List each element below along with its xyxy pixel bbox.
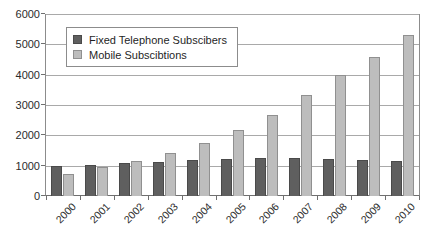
- bar-mobile-subscriptions: [97, 167, 108, 196]
- x-axis-tick-mark: [182, 196, 183, 200]
- x-axis-tick-mark: [114, 196, 115, 200]
- y-axis-tick-label: 2000: [0, 130, 40, 141]
- bar-fixed-telephone: [357, 160, 368, 196]
- y-axis-tick-label: 1000: [0, 161, 40, 172]
- x-axis-tick-mark: [283, 196, 284, 200]
- bar-fixed-telephone: [391, 161, 402, 196]
- x-axis-tick-label: 2007: [291, 201, 315, 225]
- bar-mobile-subscriptions: [131, 161, 142, 196]
- bar-group: [317, 15, 351, 196]
- y-axis-tick-label: 0: [0, 191, 40, 202]
- bar-mobile-subscriptions: [267, 115, 278, 196]
- x-axis-tick-label: 2000: [54, 201, 78, 225]
- bar-mobile-subscriptions: [369, 57, 380, 196]
- x-axis-tick-mark: [317, 196, 318, 200]
- bar-fixed-telephone: [119, 163, 130, 196]
- bar-fixed-telephone: [323, 159, 334, 196]
- bar-group: [283, 15, 317, 196]
- bar-group: [385, 15, 419, 196]
- bar-mobile-subscriptions: [165, 153, 176, 196]
- x-axis-tick-label: 2005: [223, 201, 247, 225]
- legend-swatch-mobile-icon: [73, 50, 82, 59]
- x-axis-tick-label: 2009: [359, 201, 383, 225]
- chart-legend: Fixed Telephone Subscibers Mobile Subsci…: [66, 27, 238, 67]
- bar-fixed-telephone: [221, 159, 232, 196]
- legend-label-mobile: Mobile Subscibtions: [89, 49, 187, 61]
- bar-mobile-subscriptions: [233, 130, 244, 196]
- x-axis-tick-mark: [216, 196, 217, 200]
- bar-fixed-telephone: [153, 162, 164, 196]
- bar-fixed-telephone: [255, 158, 266, 196]
- x-axis-tick-label: 2008: [325, 201, 349, 225]
- x-axis-tick-mark: [80, 196, 81, 200]
- x-axis-tick-label: 2003: [156, 201, 180, 225]
- x-axis-tick-mark: [249, 196, 250, 200]
- bar-fixed-telephone: [289, 158, 300, 196]
- x-axis: 2000200120022003200420052006200720082009…: [46, 201, 419, 247]
- legend-label-fixed: Fixed Telephone Subscibers: [89, 34, 227, 46]
- bar-mobile-subscriptions: [199, 143, 210, 196]
- bar-fixed-telephone: [51, 166, 62, 196]
- bar-group: [249, 15, 283, 196]
- bar-mobile-subscriptions: [335, 75, 346, 196]
- x-axis-tick-label: 2001: [88, 201, 112, 225]
- y-axis-tick-label: 4000: [0, 70, 40, 81]
- x-axis-tick-mark: [385, 196, 386, 200]
- x-axis-tick-label: 2004: [189, 201, 213, 225]
- y-axis-tick-label: 5000: [0, 39, 40, 50]
- x-axis-tick-mark: [419, 196, 420, 200]
- x-axis-tick-mark: [351, 196, 352, 200]
- x-axis-tick-mark: [148, 196, 149, 200]
- bar-mobile-subscriptions: [403, 35, 414, 196]
- x-axis-tick-label: 2010: [393, 201, 417, 225]
- x-axis-tick-mark: [46, 196, 47, 200]
- bar-mobile-subscriptions: [301, 95, 312, 196]
- x-axis-tick-label: 2006: [257, 201, 281, 225]
- legend-item: Fixed Telephone Subscibers: [73, 32, 227, 47]
- bar-chart: 0100020003000400050006000 20002001200220…: [0, 0, 429, 247]
- bar-group: [351, 15, 385, 196]
- bar-mobile-subscriptions: [63, 174, 74, 196]
- y-axis-tick-label: 3000: [0, 100, 40, 111]
- legend-item: Mobile Subscibtions: [73, 47, 227, 62]
- bar-fixed-telephone: [85, 165, 96, 196]
- legend-swatch-fixed-icon: [73, 35, 82, 44]
- bar-fixed-telephone: [187, 160, 198, 196]
- x-axis-tick-label: 2002: [122, 201, 146, 225]
- y-axis-tick-label: 6000: [0, 9, 40, 20]
